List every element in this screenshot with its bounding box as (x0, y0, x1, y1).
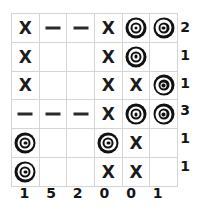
puzzle-grid (11, 13, 178, 187)
cross-icon (123, 72, 150, 100)
grid-cell[interactable] (122, 129, 150, 158)
dash-icon (67, 100, 94, 128)
empty-cell (67, 43, 94, 71)
puzzle-grid-container (11, 13, 171, 180)
bullseye-ring-r2 (130, 109, 141, 120)
bullseye-ring-r4 (134, 26, 138, 30)
bullseye-ring-r4 (24, 141, 28, 145)
grid-cell[interactable] (67, 42, 95, 71)
grid-cell[interactable] (39, 129, 67, 158)
grid-cell[interactable] (94, 100, 122, 129)
grid-cell[interactable] (39, 14, 67, 43)
bullseye-ring-r1 (128, 106, 144, 122)
bullseye-ring-r2 (158, 109, 169, 120)
bullseye-ring-r2 (130, 22, 141, 33)
bullseye-ring-r3 (133, 24, 140, 31)
grid-cell[interactable] (94, 42, 122, 71)
grid-cell[interactable] (122, 100, 150, 129)
bullseye-ring-r3 (105, 140, 112, 147)
row-clue: 1 (174, 152, 196, 180)
bullseye-ring-r1 (156, 20, 172, 36)
grid-cell[interactable] (12, 129, 40, 158)
row-clue: 3 (174, 96, 196, 124)
cross-icon (12, 14, 39, 42)
empty-cell (67, 129, 94, 157)
puzzle-grid-body (12, 14, 178, 187)
grid-cell[interactable] (67, 129, 95, 158)
grid-cell[interactable] (39, 71, 67, 100)
bullseye-icon (98, 133, 119, 154)
column-clue: 5 (38, 182, 65, 204)
bullseye-ring-r2 (130, 51, 141, 62)
grid-cell[interactable] (94, 14, 122, 43)
column-clue: 2 (64, 182, 91, 204)
bullseye-icon (125, 104, 146, 125)
bullseye-icon (15, 161, 36, 182)
bullseye-ring-r1 (17, 164, 33, 180)
bullseye-ring-r1 (128, 20, 144, 36)
bullseye-ring-r4 (134, 55, 138, 59)
grid-cell[interactable] (67, 100, 95, 129)
cross-icon (12, 72, 39, 100)
bullseye-ring-r4 (162, 26, 166, 30)
bullseye-ring-r1 (156, 106, 172, 122)
bullseye-ring-r2 (20, 138, 31, 149)
bullseye-ring-r1 (100, 135, 116, 151)
bullseye-ring-r1 (128, 49, 144, 65)
cross-icon (95, 72, 122, 100)
grid-row (12, 14, 178, 43)
cross-icon (12, 43, 39, 71)
bullseye-ring-r4 (106, 141, 110, 145)
bullseye-ring-r3 (133, 53, 140, 60)
grid-cell[interactable] (12, 71, 40, 100)
row-clues-column: 211311 (174, 13, 196, 180)
grid-cell[interactable] (12, 42, 40, 71)
grid-cell[interactable] (67, 71, 95, 100)
bullseye-ring-r4 (162, 84, 166, 88)
empty-cell (40, 43, 67, 71)
bullseye-ring-r3 (160, 111, 167, 118)
grid-cell[interactable] (12, 14, 40, 43)
grid-cell[interactable] (122, 42, 150, 71)
bullseye-ring-r4 (134, 112, 138, 116)
bullseye-icon (125, 46, 146, 67)
bullseye-icon (125, 17, 146, 38)
row-clue: 1 (174, 69, 196, 97)
column-clues-row: 152001 (11, 182, 171, 204)
bullseye-ring-r1 (156, 78, 172, 94)
dash-icon (40, 100, 67, 128)
bullseye-icon (153, 75, 174, 96)
grid-row (12, 42, 178, 71)
dash-icon (67, 14, 94, 42)
grid-row (12, 129, 178, 158)
column-clue: 1 (144, 182, 171, 204)
bullseye-icon (153, 17, 174, 38)
grid-cell[interactable] (94, 71, 122, 100)
empty-cell (40, 129, 67, 157)
grid-cell[interactable] (94, 129, 122, 158)
grid-row (12, 71, 178, 100)
empty-cell (40, 72, 67, 100)
bullseye-ring-r4 (24, 170, 28, 174)
dash-icon (12, 100, 39, 128)
bullseye-ring-r2 (158, 80, 169, 91)
grid-cell[interactable] (39, 42, 67, 71)
column-clue: 0 (118, 182, 145, 204)
grid-cell[interactable] (39, 100, 67, 129)
bullseye-ring-r2 (158, 22, 169, 33)
grid-cell[interactable] (122, 71, 150, 100)
cross-icon (95, 43, 122, 71)
cross-icon (95, 100, 122, 128)
empty-cell (150, 43, 177, 71)
puzzle-diagram: 211311 152001 (0, 0, 200, 208)
grid-cell[interactable] (122, 14, 150, 43)
row-clue: 2 (174, 13, 196, 41)
bullseye-ring-r4 (162, 112, 166, 116)
row-clue: 1 (174, 41, 196, 69)
grid-cell[interactable] (67, 14, 95, 43)
column-clue: 0 (91, 182, 118, 204)
bullseye-ring-r1 (17, 135, 33, 151)
grid-cell[interactable] (12, 100, 40, 129)
column-clue: 1 (11, 182, 38, 204)
row-clue: 1 (174, 124, 196, 152)
